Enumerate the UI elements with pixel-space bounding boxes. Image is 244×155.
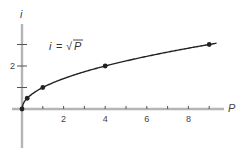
equation-annotation: i = √ P [49, 40, 83, 52]
svg-text:P: P [74, 40, 82, 52]
svg-text:√: √ [66, 40, 73, 52]
point-025-05 [25, 96, 30, 101]
x-tick-label-2: 2 [61, 114, 66, 124]
x-tick-label-8: 8 [186, 114, 191, 124]
x-tick-label-4: 4 [103, 114, 108, 124]
y-tick-label-2: 2 [10, 61, 15, 71]
point-4-2 [103, 64, 108, 69]
point-1-1 [40, 85, 45, 90]
sqrt-chart: 2 4 6 8 2 P i i = √ P [0, 0, 244, 155]
svg-text:i: i [49, 40, 52, 52]
svg-text:=: = [56, 40, 62, 52]
y-axis-label: i [20, 8, 23, 20]
point-0-0 [20, 107, 25, 112]
data-points [20, 42, 212, 111]
x-axis-label: P [228, 102, 236, 114]
x-tick-label-6: 6 [144, 114, 149, 124]
point-9-3 [207, 42, 212, 47]
sqrt-curve [22, 43, 216, 109]
